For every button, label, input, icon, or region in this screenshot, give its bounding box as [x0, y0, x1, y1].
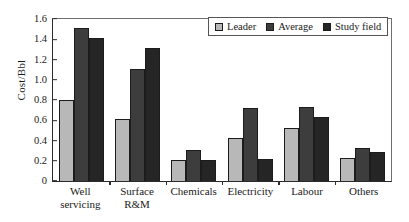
legend-item[interactable]: Study field — [323, 21, 381, 32]
bar-group — [222, 19, 278, 181]
legend-label: Study field — [335, 21, 381, 32]
x-axis-category-label: Chemicals — [165, 185, 222, 211]
bar[interactable] — [74, 28, 89, 181]
bar-groups — [53, 19, 391, 181]
bar[interactable] — [186, 150, 201, 181]
y-axis-tick: 0.2 — [34, 156, 53, 167]
bar[interactable] — [355, 148, 370, 181]
legend-swatch-icon — [215, 23, 223, 31]
x-axis-category-label: SurfaceR&M — [109, 185, 166, 211]
bar[interactable] — [171, 160, 186, 181]
bar[interactable] — [258, 159, 273, 181]
bar-chart-figure: Cost/Bbl 00.20.40.60.81.01.21.41.6 Wells… — [0, 0, 409, 222]
y-axis-tick: 1.4 — [34, 34, 53, 45]
bar[interactable] — [314, 117, 329, 181]
bar[interactable] — [340, 158, 355, 181]
y-axis-tick: 1.6 — [34, 14, 53, 25]
bar[interactable] — [299, 107, 314, 181]
bar[interactable] — [59, 100, 74, 181]
y-axis-tick: 0.6 — [34, 115, 53, 126]
bar-group — [278, 19, 334, 181]
plot-area: 00.20.40.60.81.01.21.41.6 — [52, 18, 392, 182]
bar[interactable] — [145, 48, 160, 181]
bar[interactable] — [370, 152, 385, 181]
chart-legend: LeaderAverageStudy field — [208, 17, 388, 36]
y-axis-tick: 0.8 — [34, 95, 53, 106]
x-axis-category-label: Labour — [279, 185, 336, 211]
bar[interactable] — [89, 38, 104, 181]
x-axis-labels: WellservicingSurfaceR&MChemicalsElectric… — [52, 185, 392, 211]
legend-swatch-icon — [266, 23, 274, 31]
bar-group — [166, 19, 222, 181]
bar[interactable] — [228, 138, 243, 181]
legend-item[interactable]: Leader — [215, 21, 256, 32]
y-axis-title: Cost/Bbl — [15, 25, 27, 135]
y-axis-tick: 1.0 — [34, 75, 53, 86]
legend-label: Leader — [227, 21, 256, 32]
y-axis-tick: 1.2 — [34, 54, 53, 65]
bar[interactable] — [201, 160, 216, 181]
legend-swatch-icon — [323, 23, 331, 31]
x-axis-category-label: Electricity — [222, 185, 279, 211]
bar-group — [335, 19, 391, 181]
bar[interactable] — [243, 108, 258, 181]
y-axis-tick: 0.4 — [34, 135, 53, 146]
bar-group — [53, 19, 109, 181]
bar[interactable] — [130, 69, 145, 181]
bar[interactable] — [284, 128, 299, 181]
legend-label: Average — [278, 21, 313, 32]
bar-group — [109, 19, 165, 181]
bar[interactable] — [115, 119, 130, 181]
x-axis-category-label: Wellservicing — [52, 185, 109, 211]
legend-item[interactable]: Average — [266, 21, 313, 32]
x-axis-category-label: Others — [335, 185, 392, 211]
